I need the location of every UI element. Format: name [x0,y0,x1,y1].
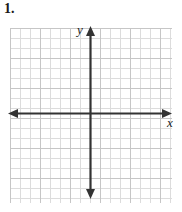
worksheet-page: 1. y x [0,0,182,212]
grid-major-lines [10,28,172,203]
problem-number-label: 1. [4,1,15,17]
x-axis-label: x [167,116,173,129]
y-axis-label: y [77,23,83,36]
coordinate-grid [10,28,172,203]
